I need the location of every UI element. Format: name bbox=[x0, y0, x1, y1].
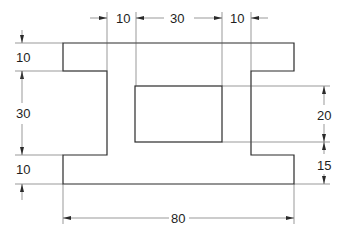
dim-left-top-flange: 10 bbox=[16, 50, 30, 65]
arrow-icon bbox=[136, 16, 144, 20]
right-dimensions bbox=[222, 86, 330, 184]
arrow-icon bbox=[20, 147, 24, 155]
dim-top-right-offset: 10 bbox=[230, 11, 244, 26]
i-section-outline bbox=[63, 43, 294, 184]
dim-right-rect-height: 20 bbox=[317, 108, 331, 123]
arrow-icon bbox=[214, 16, 222, 20]
arrow-icon bbox=[322, 142, 326, 150]
arrow-icon bbox=[322, 86, 326, 94]
arrow-icon bbox=[20, 35, 24, 43]
arrow-icon bbox=[99, 16, 107, 20]
dim-left-bottom-flange: 10 bbox=[16, 162, 30, 177]
dim-overall-width: 80 bbox=[171, 211, 185, 226]
arrow-icon bbox=[251, 16, 259, 20]
arrow-icon bbox=[322, 176, 326, 184]
arrow-icon bbox=[286, 216, 294, 220]
dim-top-left-offset: 10 bbox=[116, 11, 130, 26]
dim-top-rect-width: 30 bbox=[170, 11, 184, 26]
dim-right-bottom-offset: 15 bbox=[317, 158, 331, 173]
arrow-icon bbox=[20, 184, 24, 192]
inner-rectangle bbox=[135, 86, 222, 142]
technical-drawing: 10 30 10 10 30 10 20 bbox=[0, 0, 344, 239]
arrow-icon bbox=[322, 134, 326, 142]
dim-left-web-height: 30 bbox=[16, 106, 30, 121]
arrow-icon bbox=[63, 216, 71, 220]
